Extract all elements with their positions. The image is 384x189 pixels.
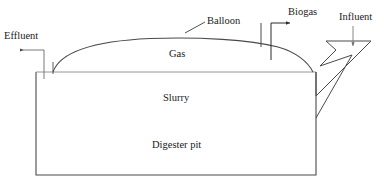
label-biogas: Biogas [288, 7, 317, 18]
label-effluent: Effluent [4, 31, 38, 42]
label-balloon: Balloon [207, 16, 240, 27]
label-digester-pit: Digester pit [152, 140, 201, 151]
digester-pit-outline [36, 72, 316, 175]
balloon-leader-line [185, 22, 205, 33]
influent-funnel-throat [316, 41, 352, 118]
influent-funnel-upper [316, 41, 371, 96]
biogas-digester-drawing [0, 0, 384, 189]
label-slurry: Slurry [163, 93, 189, 104]
label-gas: Gas [169, 49, 185, 60]
label-influent: Influent [339, 12, 372, 23]
diagram-canvas: Effluent Balloon Biogas Influent Gas Slu… [0, 0, 384, 189]
biogas-pipe-right-wall [271, 23, 282, 60]
